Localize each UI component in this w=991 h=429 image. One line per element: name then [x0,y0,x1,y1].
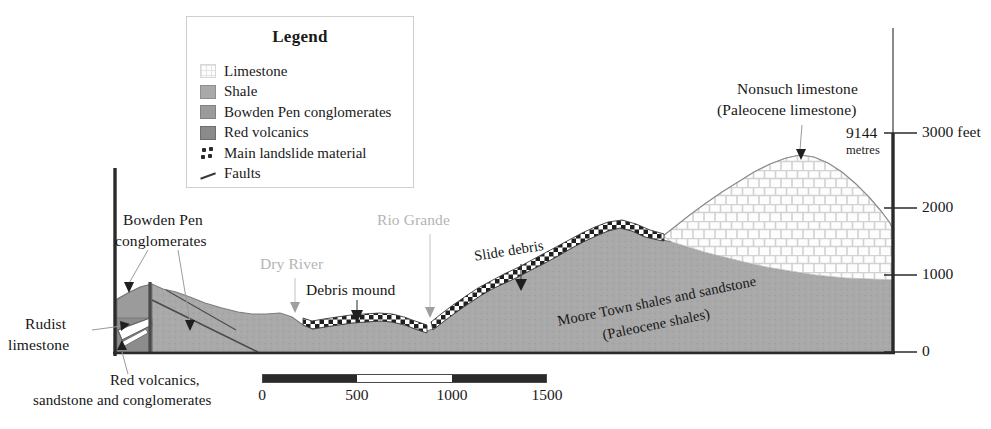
shale-swatch-icon [200,85,216,99]
scale-bar [262,374,547,383]
scale-tick-500: 500 [345,386,368,404]
arrow-dry-river [290,302,300,313]
arrow-rio-grande [425,307,435,318]
legend-title: Legend [187,27,413,47]
annotation-dry-river: Dry River [260,255,323,272]
legend-label-red-volcanics: Red volcanics [224,124,309,141]
annotation-red-volcanics-line1: Red volcanics, [110,372,200,389]
scale-tick-0: 0 [258,386,266,404]
scale-tick-1000: 1000 [436,386,467,404]
annotation-nonsuch-limestone-line2: (Paleocene limestone) [717,101,856,118]
annotation-rudist-limestone-line1: Rudist [25,315,66,332]
axis-tick-label-3000: 3000 feet [922,123,981,140]
legend-label-faults: Faults [224,165,261,182]
legend-label-limestone: Limestone [224,63,287,80]
annotation-bowden-pen-line2: conglomerates [115,232,207,249]
annotation-debris-mound: Debris mound [306,281,395,298]
scale-bar-ticks: 0 500 1000 1500 [262,386,547,406]
limestone-swatch-icon [200,64,216,78]
axis-tick-label-0: 0 [922,342,930,359]
scale-segment-1000-1500 [452,375,546,382]
annotation-red-volcanics-line2: sandstone and conglomerates [33,392,211,409]
annotation-rudist-limestone-line2: limestone [8,336,69,353]
legend-item-shale: Shale [200,82,412,103]
scale-tick-1500: 1500 [532,386,563,404]
annotation-nonsuch-limestone-line1: Nonsuch limestone [737,80,858,97]
legend-label-shale: Shale [224,83,257,100]
axis-metres-unit: metres [846,143,880,157]
legend-panel: Legend Limestone Shale Bowden Pen conglo… [186,16,414,188]
annotation-rio-grande: Rio Grande [377,211,450,228]
scale-segment-0-500 [263,375,357,382]
axis-metres-value: 9144 [846,124,877,141]
legend-item-faults: Faults [200,164,412,185]
fault-line-swatch-icon [200,167,216,181]
bowden-pen-swatch-icon [200,105,216,119]
red-volcanics-swatch-icon [200,126,216,140]
legend-item-red-volcanics: Red volcanics [200,123,412,144]
annotation-bowden-pen-line1: Bowden Pen [123,211,203,228]
legend-item-list: Limestone Shale Bowden Pen conglomerates… [200,61,412,184]
legend-item-bowden-pen: Bowden Pen conglomerates [200,102,412,123]
axis-tick-label-2000: 2000 [922,198,953,215]
legend-label-bowden-pen: Bowden Pen conglomerates [224,104,391,121]
axis-tick-label-1000: 1000 [922,265,953,282]
scale-bar-group: 0 500 1000 1500 [262,374,547,406]
legend-label-landslide: Main landslide material [224,145,366,162]
legend-item-landslide: Main landslide material [200,143,412,164]
geological-cross-section-figure: Legend Limestone Shale Bowden Pen conglo… [0,0,991,429]
landslide-dots-swatch-icon [200,146,216,160]
legend-item-limestone: Limestone [200,61,412,82]
